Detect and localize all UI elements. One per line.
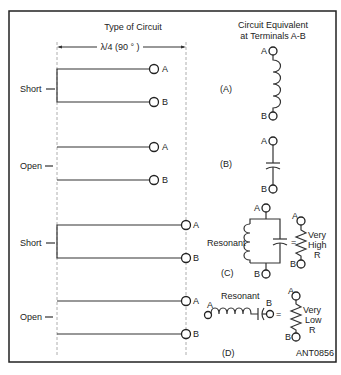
equals-sign: =	[276, 309, 281, 319]
terminal-a	[182, 297, 191, 306]
resistor-label-line2: Low	[305, 315, 322, 325]
terminal-a	[150, 143, 159, 152]
circuit-type-label: Open	[20, 312, 42, 322]
resistor-terminal-a	[297, 217, 305, 225]
equivalent-tag: (D)	[222, 348, 235, 358]
terminal-a	[269, 137, 277, 145]
resistor-label-line1: Very	[308, 230, 327, 240]
figure-frame	[9, 11, 336, 362]
circuit-type-label: Short	[20, 238, 42, 248]
heading-equivalent-line1: Circuit Equivalent	[238, 20, 309, 30]
terminal-b-label: B	[266, 298, 272, 308]
terminal-b	[269, 112, 277, 120]
terminal-b-label: B	[162, 175, 168, 185]
transmission-line-diagram: Type of Circuit Circuit Equivalent at Te…	[0, 0, 341, 375]
resonant-label: Resonant	[207, 238, 246, 248]
terminal-a	[205, 312, 212, 319]
terminal-a-label: A	[193, 296, 199, 306]
resonant-label: Resonant	[221, 291, 260, 301]
resistor-label-line1: Very	[303, 305, 322, 315]
resistor-terminal-b	[292, 333, 300, 341]
terminal-a	[262, 204, 270, 212]
terminal-b	[269, 185, 277, 193]
terminal-b	[182, 330, 191, 339]
equals-sign: =	[291, 237, 296, 247]
terminal-b	[150, 176, 159, 185]
terminal-a-label: A	[254, 203, 260, 213]
heading-equivalent-line2: at Terminals A-B	[240, 31, 305, 41]
terminal-a-label: A	[261, 46, 267, 56]
terminal-b-label: B	[261, 111, 267, 121]
resistor-label-line3: R	[314, 250, 321, 260]
resistor-label-line2: High	[308, 240, 327, 250]
resistor-label-line3: R	[309, 325, 316, 335]
terminal-b	[182, 254, 191, 263]
terminal-a	[269, 47, 277, 55]
terminal-b	[150, 98, 159, 107]
dimension-label: λ/4 (90 ° )	[100, 42, 139, 52]
terminal-a-label: A	[261, 136, 267, 146]
figure-id: ANT0856	[296, 348, 334, 358]
equivalent-tag: (C)	[221, 268, 234, 278]
terminal-a-label: A	[162, 64, 168, 74]
terminal-b-label: B	[162, 97, 168, 107]
terminal-b	[267, 311, 274, 318]
equivalent-tag: (B)	[220, 159, 232, 169]
terminal-b-label: B	[254, 269, 260, 279]
terminal-a	[182, 221, 191, 230]
circuit-type-label: Open	[20, 161, 42, 171]
resistor-terminal-a-label: A	[292, 211, 298, 221]
equivalent-tag: (A)	[220, 84, 232, 94]
terminal-a-label: A	[193, 220, 199, 230]
terminal-a-label: A	[162, 142, 168, 152]
resistor-terminal-b-label: B	[285, 332, 291, 342]
resistor-terminal-b-label: B	[290, 259, 296, 269]
circuit-type-label: Short	[20, 84, 42, 94]
terminal-b-label: B	[193, 253, 199, 263]
heading-type-of-circuit: Type of Circuit	[104, 22, 162, 32]
terminal-b-label: B	[193, 329, 199, 339]
resistor-terminal-a-label: A	[288, 286, 294, 296]
terminal-a	[150, 65, 159, 74]
resistor-terminal-b	[297, 260, 305, 268]
terminal-b-label: B	[261, 184, 267, 194]
terminal-b	[262, 270, 270, 278]
